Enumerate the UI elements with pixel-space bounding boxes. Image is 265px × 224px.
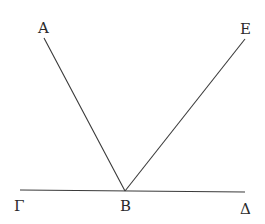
label-b: B [120,197,131,215]
segment-gamma-delta [20,190,245,192]
label-a: A [37,19,49,37]
geometry-diagram: A E Γ B Δ [0,0,265,224]
label-gamma: Γ [14,197,24,215]
segment-eb [125,39,245,191]
segment-ab [44,38,125,191]
label-delta: Δ [240,200,251,218]
label-e: E [240,20,251,38]
